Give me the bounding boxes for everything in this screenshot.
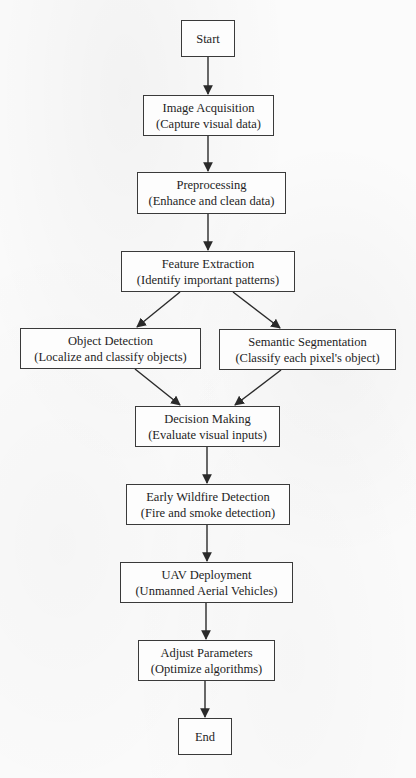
node-end: End (178, 718, 232, 755)
node-subtitle: (Unmanned Aerial Vehicles) (135, 583, 277, 599)
node-subtitle: (Fire and smoke detection) (141, 505, 275, 521)
node-title: Start (196, 31, 220, 47)
node-title: UAV Deployment (161, 567, 251, 583)
node-title: Preprocessing (176, 177, 246, 193)
node-object-detection: Object Detection (Localize and classify … (20, 328, 201, 369)
node-title: Object Detection (68, 333, 153, 349)
node-title: End (195, 729, 215, 745)
node-subtitle: (Classify each pixel's object) (235, 350, 379, 366)
edge-feature-extraction-to-semantic-segmentation (233, 292, 280, 328)
node-start: Start (181, 20, 235, 57)
node-adjust-parameters: Adjust Parameters (Optimize algorithms) (138, 640, 275, 681)
node-uav-deployment: UAV Deployment (Unmanned Aerial Vehicles… (120, 562, 293, 603)
node-preprocessing: Preprocessing (Enhance and clean data) (137, 172, 286, 214)
node-subtitle: (Optimize algorithms) (151, 661, 262, 677)
node-subtitle: (Capture visual data) (156, 116, 261, 132)
node-subtitle: (Enhance and clean data) (149, 193, 275, 209)
edge-object-detection-to-decision-making (135, 369, 180, 405)
edge-feature-extraction-to-object-detection (137, 292, 180, 327)
node-feature-extraction: Feature Extraction (Identify important p… (121, 251, 295, 292)
node-title: Decision Making (164, 411, 250, 427)
node-title: Early Wildfire Detection (146, 489, 270, 505)
node-title: Feature Extraction (162, 256, 255, 272)
node-title: Adjust Parameters (161, 645, 253, 661)
node-subtitle: (Identify important patterns) (137, 272, 279, 288)
node-image-acquisition: Image Acquisition (Capture visual data) (143, 95, 274, 136)
node-early-wildfire-detection: Early Wildfire Detection (Fire and smoke… (126, 484, 290, 525)
node-subtitle: (Evaluate visual inputs) (148, 427, 267, 443)
node-semantic-segmentation: Semantic Segmentation (Classify each pix… (219, 329, 396, 370)
edge-semantic-segmentation-to-decision-making (235, 370, 281, 405)
node-subtitle: (Localize and classify objects) (34, 349, 186, 365)
node-decision-making: Decision Making (Evaluate visual inputs) (135, 406, 280, 447)
node-title: Image Acquisition (163, 100, 255, 116)
node-title: Semantic Segmentation (248, 334, 366, 350)
